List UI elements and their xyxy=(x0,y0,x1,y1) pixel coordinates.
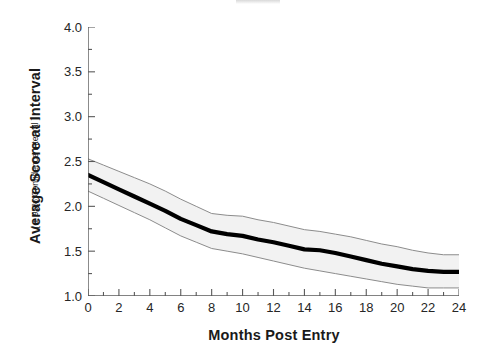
chart-svg xyxy=(88,27,459,296)
x-tick-label: 8 xyxy=(198,301,226,314)
y-tick-label: 2.5 xyxy=(48,155,82,168)
y-tick-label: 1.5 xyxy=(48,245,82,258)
x-tick-label: 24 xyxy=(445,301,473,314)
y-tick-label: 3.0 xyxy=(48,110,82,123)
x-tick-label: 12 xyxy=(260,301,288,314)
y-axis-subtitle: [ ± 95% Confidence Interval ] xyxy=(30,68,40,278)
x-tick-label: 2 xyxy=(105,301,133,314)
x-axis-title: Months Post Entry xyxy=(88,327,460,343)
x-tick-label: 16 xyxy=(321,301,349,314)
x-tick-label: 0 xyxy=(74,301,102,314)
chart-figure: Average Score at Interval [ ± 95% Confid… xyxy=(0,0,484,356)
y-axis-title-group: Average Score at Interval [ ± 95% Confid… xyxy=(0,0,46,356)
y-tick-label: 4.0 xyxy=(48,21,82,34)
x-tick-label: 6 xyxy=(167,301,195,314)
x-tick-label: 18 xyxy=(352,301,380,314)
x-tick-label: 14 xyxy=(290,301,318,314)
x-tick-label: 4 xyxy=(136,301,164,314)
cropped-title-remnant xyxy=(236,0,280,4)
plot-area xyxy=(88,27,459,296)
x-tick-label: 22 xyxy=(414,301,442,314)
x-tick-label: 20 xyxy=(383,301,411,314)
y-tick-label: 2.0 xyxy=(48,200,82,213)
y-tick-label: 3.5 xyxy=(48,65,82,78)
x-tick-label: 10 xyxy=(229,301,257,314)
